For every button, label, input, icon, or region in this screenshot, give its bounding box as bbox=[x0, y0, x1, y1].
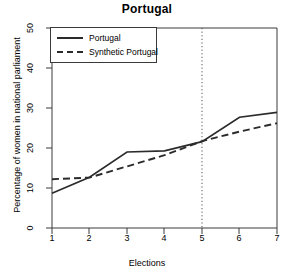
y-tick-label-50: 50 bbox=[25, 20, 35, 36]
x-tick-label-7: 7 bbox=[267, 233, 287, 243]
chart-figure: Portugal Percentage of women in national… bbox=[0, 0, 294, 276]
legend-item-synthetic-portugal: Synthetic Portugal bbox=[57, 45, 158, 59]
chart-legend: Portugal Synthetic Portugal bbox=[50, 27, 157, 63]
y-tick-label-40: 40 bbox=[25, 60, 35, 76]
x-tick-label-5: 5 bbox=[192, 233, 212, 243]
legend-solid-line-icon bbox=[57, 33, 83, 43]
x-tick-label-6: 6 bbox=[229, 233, 249, 243]
legend-label-portugal: Portugal bbox=[89, 33, 121, 43]
x-tick-label-2: 2 bbox=[79, 233, 99, 243]
x-tick-label-3: 3 bbox=[117, 233, 137, 243]
legend-item-portugal: Portugal bbox=[57, 31, 121, 45]
y-tick-label-10: 10 bbox=[25, 180, 35, 196]
x-tick-label-1: 1 bbox=[42, 233, 62, 243]
legend-dashed-line-icon bbox=[57, 47, 83, 57]
y-tick-label-0: 0 bbox=[25, 220, 35, 236]
x-tick-label-4: 4 bbox=[154, 233, 174, 243]
y-tick-label-30: 30 bbox=[25, 100, 35, 116]
y-tick-label-20: 20 bbox=[25, 140, 35, 156]
series-line-portugal bbox=[52, 112, 277, 193]
legend-label-synthetic-portugal: Synthetic Portugal bbox=[89, 47, 158, 57]
